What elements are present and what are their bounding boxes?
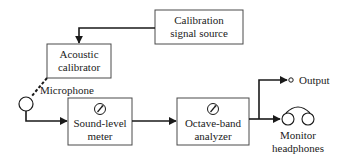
octave-band-analyzer-block: Octave-band analyzer — [177, 98, 249, 145]
octave-band-analyzer-label-line2: analyzer — [194, 130, 232, 142]
calibration-signal-source-block: Calibration signal source — [155, 10, 243, 44]
sound-level-meter-block: Sound-level meter — [68, 98, 132, 145]
acoustic-calibrator-label-line2: calibrator — [58, 61, 100, 73]
connector-source-to-calibrator — [79, 28, 155, 43]
headphones-label-line1: Monitor — [280, 129, 316, 141]
acoustic-calibrator-label-line1: Acoustic — [59, 48, 98, 60]
calibration-signal-source-label-line1: Calibration — [174, 14, 224, 26]
sound-level-meter-label-line1: Sound-level — [73, 117, 126, 129]
octave-band-analyzer-label-line1: Octave-band — [185, 117, 242, 129]
connector-microphone-to-meter — [26, 111, 67, 121]
microphone-label: Microphone — [40, 84, 94, 96]
output-terminal-icon — [289, 78, 293, 82]
calibration-signal-source-label-line2: signal source — [170, 27, 228, 39]
headphones-icon — [282, 107, 314, 125]
meter-dial-icon — [208, 104, 219, 115]
measurement-block-diagram: Calibration signal source Acoustic calib… — [0, 0, 346, 155]
connector-analyzer-branches — [249, 80, 287, 119]
meter-dial-icon — [95, 104, 106, 115]
headphones-label-line2: headphones — [272, 142, 324, 154]
microphone-icon — [19, 97, 33, 111]
output-label: Output — [299, 74, 330, 86]
acoustic-calibrator-block: Acoustic calibrator — [47, 44, 111, 78]
sound-level-meter-label-line2: meter — [87, 130, 112, 142]
